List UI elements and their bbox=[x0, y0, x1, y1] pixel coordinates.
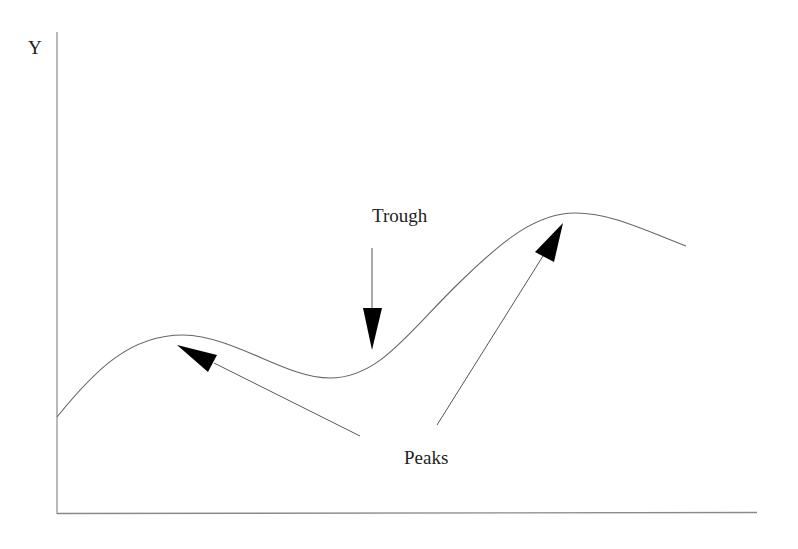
trough-arrowhead-icon bbox=[363, 308, 382, 350]
peak-left-arrowhead-icon bbox=[177, 345, 217, 372]
x-axis bbox=[57, 513, 757, 514]
peak-right-arrowhead-icon bbox=[535, 223, 563, 262]
peak-left-arrow bbox=[177, 345, 360, 436]
peak-right-arrow bbox=[437, 223, 563, 425]
y-axis-label: Y bbox=[28, 38, 42, 57]
trough-label: Trough bbox=[372, 206, 427, 225]
peaks-trough-diagram: Y Trough Peaks bbox=[0, 0, 798, 549]
trough-arrow bbox=[363, 248, 382, 350]
diagram-canvas bbox=[0, 0, 798, 549]
peaks-label: Peaks bbox=[404, 448, 448, 467]
